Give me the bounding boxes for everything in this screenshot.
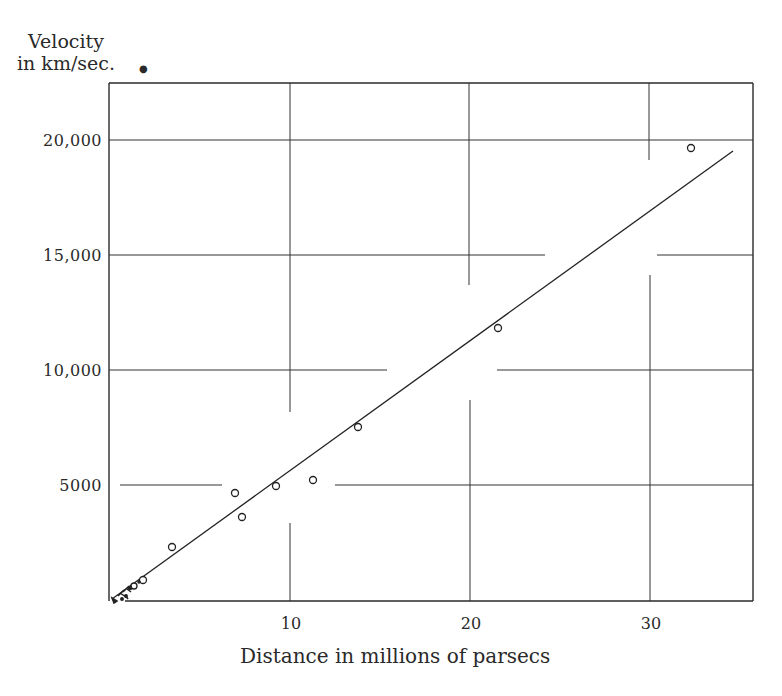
data-point	[495, 325, 502, 332]
data-point	[273, 483, 280, 490]
data-point	[239, 514, 246, 521]
fitted-line	[112, 151, 733, 599]
data-point	[688, 145, 695, 152]
data-points	[131, 145, 695, 590]
data-point	[355, 424, 362, 431]
data-point	[232, 490, 239, 497]
frame	[109, 83, 753, 601]
gridlines	[109, 83, 753, 601]
plot-area	[0, 0, 782, 696]
data-point	[169, 544, 176, 551]
data-point	[310, 477, 317, 484]
